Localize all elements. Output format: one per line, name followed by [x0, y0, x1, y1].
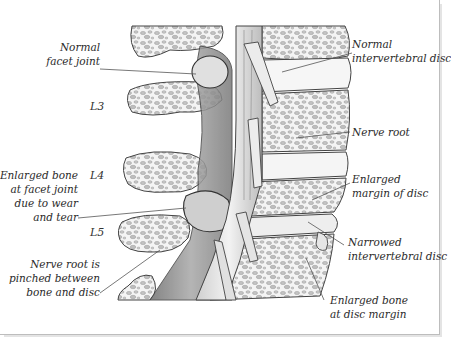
process-bottom — [118, 275, 156, 300]
process-l4 — [123, 152, 206, 193]
normal-facet-joint — [192, 56, 228, 88]
process-l5 — [118, 215, 189, 252]
label-normal-facet-joint: Normal facet joint — [46, 40, 100, 68]
label-narrowed-disc: Narrowed intervertebral disc — [348, 235, 447, 263]
vertebra-label-l3: L3 — [90, 100, 104, 113]
normal-disc — [262, 58, 351, 92]
label-normal-disc: Normal intervertebral disc — [352, 37, 451, 65]
vertebra-label-l5: L5 — [90, 226, 104, 239]
label-enlarged-bone-facet: Enlarged bone at facet joint due to wear… — [0, 168, 78, 224]
vertebral-body-top — [262, 26, 349, 60]
disc-l3-l4 — [262, 152, 348, 180]
leader-normal-facet — [100, 69, 196, 74]
label-nerve-root-pinched: Nerve root is pinched between bone and d… — [9, 257, 100, 299]
label-nerve-root: Nerve root — [352, 125, 410, 139]
label-enlarged-margin: Enlarged margin of disc — [352, 172, 428, 200]
label-enlarged-bone-disc-margin: Enlarged bone at disc margin — [330, 293, 408, 321]
vertebral-body-l4 — [250, 178, 346, 216]
vertebra-label-l4: L4 — [90, 169, 104, 182]
